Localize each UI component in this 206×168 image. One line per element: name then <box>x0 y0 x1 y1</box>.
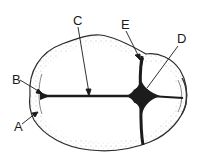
skull-outline <box>30 35 187 151</box>
label-c: C <box>73 13 82 28</box>
skull-diagram: A B C D E <box>0 0 206 168</box>
label-a: A <box>14 119 23 134</box>
label-e: E <box>121 17 130 32</box>
label-d: D <box>177 31 186 46</box>
label-b: B <box>12 72 21 87</box>
